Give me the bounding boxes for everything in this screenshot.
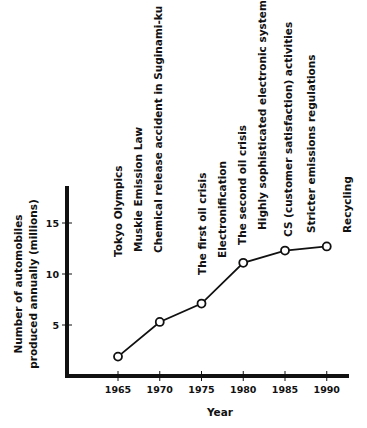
x-tick-label: 1990	[314, 384, 341, 395]
data-point	[198, 300, 206, 308]
y-tick-label: 5	[52, 320, 59, 331]
series-polyline	[118, 246, 327, 356]
event-label: The first oil crisis	[196, 173, 208, 275]
x-tick-label: 1965	[105, 384, 131, 395]
series-line	[118, 246, 327, 356]
x-tick-label: 1985	[272, 384, 298, 395]
data-point	[239, 259, 247, 267]
data-point	[156, 318, 164, 326]
production-chart: 19651970197519801985199051015 Tokyo Olym…	[0, 0, 367, 428]
data-point	[114, 353, 122, 361]
ticks: 19651970197519801985199051015	[46, 218, 341, 396]
event-label: Electronification	[216, 161, 228, 258]
x-axis-title: Year	[206, 406, 234, 418]
y-tick-label: 10	[46, 269, 60, 280]
data-points	[114, 242, 331, 360]
x-tick-label: 1970	[147, 384, 174, 395]
event-annotations: Tokyo OlympicsMuskie Emission LawChemica…	[112, 0, 353, 275]
event-label: Chemical release accident in Suginami-ku	[152, 6, 164, 253]
event-label: Recycling	[341, 176, 353, 233]
event-label: CS (customer satisfaction) activities	[282, 22, 294, 237]
event-label: Stricter emissions regulations	[305, 55, 317, 233]
event-label: The second oil crisis	[236, 125, 248, 245]
y-axis-title-line-2: produced annually (millions)	[27, 199, 39, 369]
event-label: Tokyo Olympics	[112, 165, 124, 257]
x-tick-label: 1980	[230, 384, 257, 395]
event-label: Highly sophisticated electronic systems	[256, 0, 268, 230]
y-tick-label: 15	[46, 218, 59, 229]
event-label: Muskie Emission Law	[132, 127, 144, 252]
x-tick-label: 1975	[188, 384, 214, 395]
data-point	[323, 242, 331, 250]
y-axis-title-line-1: Number of automobiles	[12, 214, 24, 353]
data-point	[281, 247, 289, 255]
